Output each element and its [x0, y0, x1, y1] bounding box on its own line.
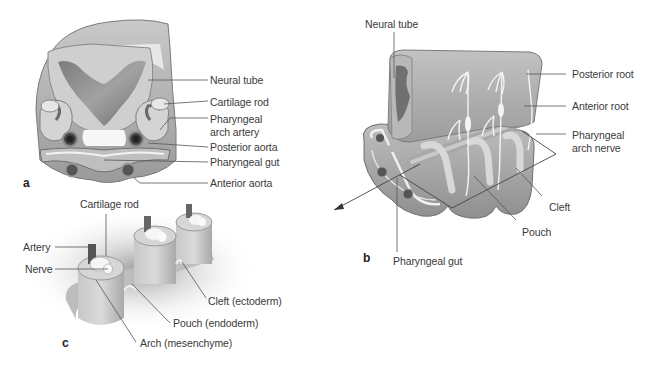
- label-pharyngeal-arch-nerve-line2: arch nerve: [572, 142, 621, 155]
- label-pharyngeal-arch-nerve-line1: Pharyngeal: [572, 129, 624, 142]
- label-nerve: Nerve: [25, 263, 53, 276]
- label-posterior-aorta: Posterior aorta: [210, 141, 277, 154]
- label-pouch: Pouch: [522, 226, 551, 239]
- label-pharyngeal-arch-artery-line2: arch artery: [210, 126, 259, 139]
- label-pouch-endoderm: Pouch (endoderm): [173, 317, 258, 330]
- label-arch-mesenchyme: Arch (mesenchyme): [140, 337, 232, 350]
- panel-letter-a: a: [23, 176, 30, 190]
- label-cartilage-rod-a: Cartilage rod: [210, 96, 269, 109]
- label-artery: Artery: [23, 241, 50, 254]
- pharyngeal-arch-figure: Neural tube Cartilage rod Pharyngeal arc…: [0, 0, 645, 367]
- label-cleft: Cleft: [549, 201, 570, 214]
- label-pharyngeal-gut-a: Pharyngeal gut: [210, 156, 279, 169]
- panel-c: Cartilage rod Artery Nerve Cleft (ectode…: [0, 190, 330, 367]
- label-neural-tube-a: Neural tube: [210, 74, 263, 87]
- label-cartilage-rod-c: Cartilage rod: [80, 198, 139, 211]
- label-pharyngeal-arch-artery-line1: Pharyngeal: [210, 113, 262, 126]
- panel-letter-b: b: [363, 251, 370, 265]
- direction-arrow-icon: [334, 203, 344, 210]
- label-anterior-aorta: Anterior aorta: [210, 177, 272, 190]
- label-pharyngeal-gut-b: Pharyngeal gut: [393, 255, 462, 268]
- label-posterior-root: Posterior root: [572, 68, 634, 81]
- label-cleft-ectoderm: Cleft (ectoderm): [208, 295, 282, 308]
- label-anterior-root: Anterior root: [572, 100, 628, 113]
- panel-b: Neural tube Posterior root Anterior root…: [320, 0, 645, 270]
- panel-a-illustration: [0, 0, 330, 200]
- panel-letter-c: c: [62, 336, 69, 350]
- label-neural-tube-b: Neural tube: [365, 18, 418, 31]
- panel-a: Neural tube Cartilage rod Pharyngeal arc…: [0, 0, 330, 200]
